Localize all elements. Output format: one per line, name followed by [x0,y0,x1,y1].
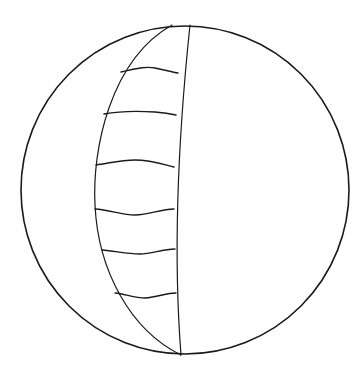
lune-left-edge [95,25,181,355]
wavy-rungs [95,67,178,298]
wavy-rung-3 [96,160,174,167]
sphere-svg [0,0,363,381]
wavy-rung-5 [102,249,175,254]
sphere-drawing [0,0,363,381]
wavy-rung-1 [121,67,178,73]
lune-right-edge [177,25,190,355]
wavy-rung-6 [115,293,176,298]
wavy-rung-4 [95,209,174,215]
wavy-rung-2 [104,111,176,115]
